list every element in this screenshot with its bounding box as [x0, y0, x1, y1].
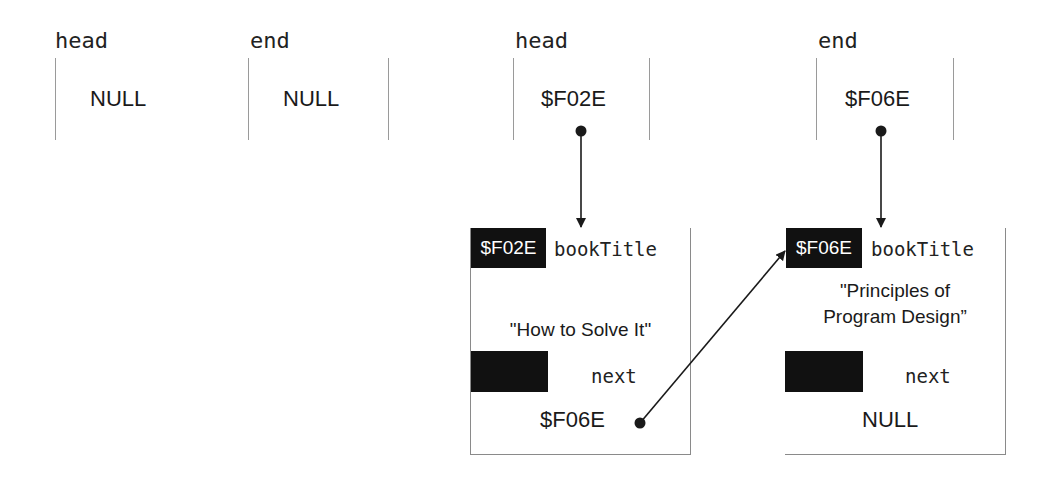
arrow-diagonal-icon [640, 251, 785, 423]
next-pointer-arrow [635, 251, 786, 429]
end-pointer-arrow [876, 126, 887, 228]
head-pointer-arrow [576, 126, 587, 228]
pointer-arrows [0, 0, 1055, 479]
